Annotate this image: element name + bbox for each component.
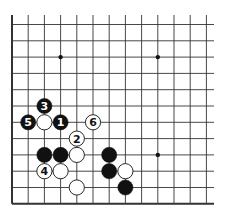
black-stone-disc	[53, 147, 68, 162]
black-stone-disc	[118, 180, 133, 195]
move-number-label: 3	[41, 100, 49, 113]
go-board: 351624	[0, 0, 227, 218]
move-number-label: 2	[73, 133, 81, 146]
star-point	[156, 153, 160, 157]
white-stone	[69, 147, 84, 162]
white-stone	[53, 164, 68, 179]
white-stone	[118, 164, 133, 179]
white-stone: 6	[85, 115, 100, 130]
black-stone	[102, 147, 117, 162]
black-stone	[118, 180, 133, 195]
black-stone: 3	[37, 98, 52, 113]
move-number-label: 6	[89, 116, 97, 129]
black-stone	[53, 147, 68, 162]
move-number-label: 1	[57, 116, 65, 129]
star-point	[58, 55, 62, 59]
white-stone-disc	[69, 147, 84, 162]
black-stone	[102, 164, 117, 179]
move-number-label: 4	[41, 165, 49, 178]
black-stone-disc	[37, 147, 52, 162]
white-stone-disc	[53, 164, 68, 179]
white-stone	[69, 180, 84, 195]
star-point	[156, 55, 160, 59]
white-stone	[37, 115, 52, 130]
black-stone: 1	[53, 115, 68, 130]
white-stone: 4	[37, 164, 52, 179]
white-stone-disc	[69, 180, 84, 195]
white-stone-disc	[37, 115, 52, 130]
black-stone-disc	[102, 164, 117, 179]
white-stone: 2	[69, 131, 84, 146]
white-stone-disc	[118, 164, 133, 179]
black-stone-disc	[102, 147, 117, 162]
black-stone	[37, 147, 52, 162]
black-stone: 5	[21, 115, 36, 130]
move-number-label: 5	[24, 116, 32, 129]
